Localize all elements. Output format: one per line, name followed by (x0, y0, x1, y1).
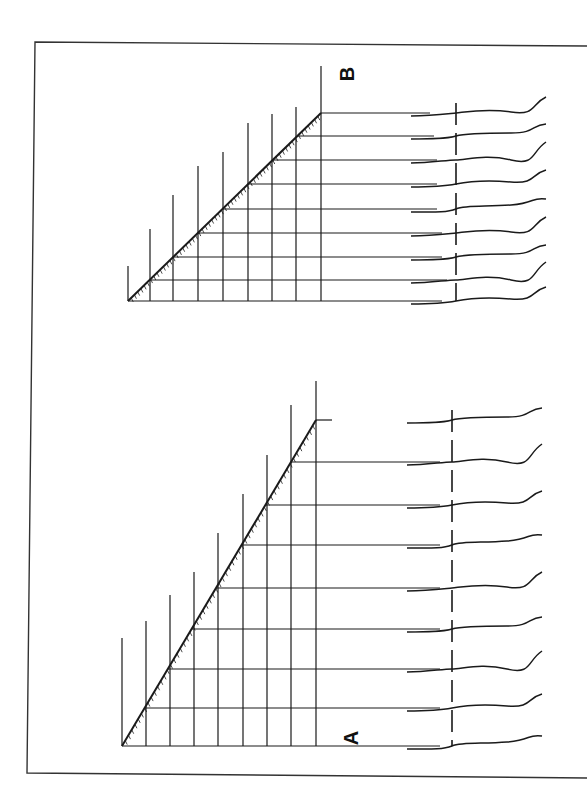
hatch-mark (222, 578, 224, 582)
hatch-mark (255, 523, 257, 527)
hatch-mark (179, 251, 181, 255)
hatch-mark (310, 431, 312, 435)
hatch-mark (235, 556, 237, 560)
hatch-mark (305, 129, 307, 133)
hatch-mark (287, 469, 289, 473)
hatch-mark (125, 741, 127, 745)
hatch-mark (171, 665, 173, 669)
hatch-mark (273, 160, 275, 164)
hatch-mark (205, 226, 207, 230)
hatch-mark (186, 245, 188, 249)
hatch-mark (264, 507, 266, 511)
hatch-mark (128, 735, 130, 739)
wave-trace (411, 97, 546, 116)
hatch-mark (260, 173, 262, 177)
hatch-mark (251, 529, 253, 533)
hatch-mark (151, 697, 153, 701)
hatch-mark (266, 166, 268, 170)
hatch-mark (215, 216, 217, 220)
hatch-mark (203, 610, 205, 614)
panel-b (128, 66, 546, 304)
panel-label-b: B (336, 67, 358, 81)
hatch-mark (147, 282, 149, 286)
hatch-mark (177, 654, 179, 658)
hatch-mark (187, 637, 189, 641)
hatch-mark (306, 436, 308, 440)
hatch-mark (189, 241, 191, 245)
hatch-mark (261, 512, 263, 516)
hatch-mark (158, 686, 160, 690)
hatch-mark (134, 295, 136, 299)
hatch-mark (196, 235, 198, 239)
hatch-mark (183, 643, 185, 647)
wave-trace (407, 736, 542, 750)
hatch-mark (289, 144, 291, 148)
hatch-mark (208, 223, 210, 227)
hatch-mark (302, 132, 304, 136)
hatch-mark (190, 632, 192, 636)
hatch-mark (160, 270, 162, 274)
hatch-mark (318, 116, 320, 120)
hatch-mark (132, 730, 134, 734)
hatch-mark (148, 703, 150, 707)
hatch-mark (219, 583, 221, 587)
wave-trace (407, 617, 542, 632)
hatch-mark (196, 621, 198, 625)
hatch-mark (248, 534, 250, 538)
hatch-mark (218, 213, 220, 217)
hatch-mark (245, 540, 247, 544)
hatch-mark (209, 599, 211, 603)
hatch-mark (206, 605, 208, 609)
hatch-mark (238, 550, 240, 554)
hatch-mark (284, 474, 286, 478)
hatch-mark (138, 292, 140, 296)
hatch-mark (244, 188, 246, 192)
hatch-mark (229, 567, 231, 571)
hatch-mark (303, 442, 305, 446)
hatch-mark (161, 681, 163, 685)
hatch-mark (253, 179, 255, 183)
wave-trace (411, 245, 546, 260)
hatch-mark (270, 163, 272, 167)
hatch-mark (300, 447, 302, 451)
hatch-mark (192, 238, 194, 242)
hatch-mark (263, 169, 265, 173)
hatch-mark (282, 151, 284, 155)
hatch-mark (164, 675, 166, 679)
hatch-mark (213, 594, 215, 598)
hatch-mark (174, 659, 176, 663)
hatch-mark (286, 147, 288, 151)
hatch-mark (228, 204, 230, 208)
hatch-mark (135, 724, 137, 728)
hatch-mark (232, 561, 234, 565)
hatch-mark (141, 713, 143, 717)
hatch-mark (234, 198, 236, 202)
hatch-mark (297, 453, 299, 457)
wave-trace (407, 535, 542, 549)
wave-trace (407, 408, 542, 423)
wave-trace (411, 124, 546, 139)
hatch-mark (315, 119, 317, 123)
hatch-mark (277, 485, 279, 489)
diagram-figure: B A (0, 0, 587, 799)
hatch-mark (200, 616, 202, 620)
panel-label-a: A (340, 731, 362, 745)
hatch-mark (180, 648, 182, 652)
wave-trace (411, 199, 546, 213)
hatch-mark (313, 425, 315, 429)
hatch-mark (202, 229, 204, 233)
hatch-mark (154, 276, 156, 280)
hatch-mark (311, 122, 313, 126)
hatch-mark (170, 260, 172, 264)
hatch-mark (157, 273, 159, 277)
hatch-mark (138, 719, 140, 723)
hatch-mark (257, 176, 259, 180)
panel-a (122, 381, 542, 749)
hatch-mark (308, 126, 310, 130)
hatch-mark (292, 141, 294, 145)
hatch-mark (154, 692, 156, 696)
hatch-mark (258, 518, 260, 522)
hatch-mark (163, 267, 165, 271)
hatch-mark (183, 248, 185, 252)
hatch-mark (280, 480, 282, 484)
